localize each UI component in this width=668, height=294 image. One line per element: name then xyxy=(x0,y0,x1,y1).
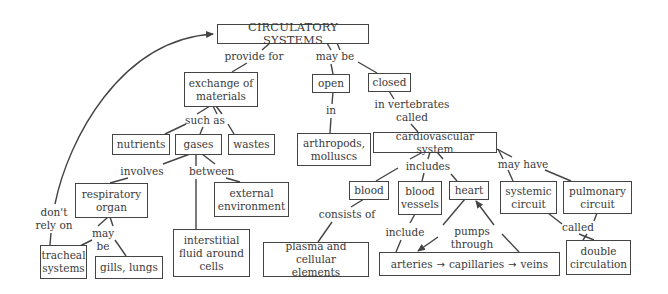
node-vessel-chain: arteries → capillaries → veins xyxy=(379,252,560,276)
node-plasma-cellular-elements: plasma and cellular elements xyxy=(263,242,369,277)
link-consists-of: consists of xyxy=(316,208,378,221)
link-pumps-through: pumps through xyxy=(434,225,510,251)
node-systemic-circuit: systemic circuit xyxy=(500,181,557,214)
node-closed: closed xyxy=(368,73,411,92)
node-double-circulation: double circulation xyxy=(566,240,631,275)
node-nutrients: nutrients xyxy=(112,134,170,155)
link-dont-rely-on: don't rely on xyxy=(34,206,74,232)
node-blood-vessels: blood vessels xyxy=(398,181,442,215)
chain-veins: veins xyxy=(521,258,549,271)
node-exchange-of-materials: exchange of materials xyxy=(184,72,258,107)
link-in: in xyxy=(323,104,339,117)
link-provide-for: provide for xyxy=(224,50,284,63)
node-tracheal-systems: tracheal systems xyxy=(40,245,87,279)
right-arrow-icon: → xyxy=(437,258,445,271)
link-such-as: such as xyxy=(184,114,226,127)
link-involves: involves xyxy=(118,165,166,178)
link-may-be-top: may be xyxy=(314,50,356,63)
node-arthropods-molluscs: arthropods, molluscs xyxy=(297,133,371,166)
node-wastes: wastes xyxy=(228,134,275,155)
node-cardiovascular-system: cardiovascular system xyxy=(373,132,497,153)
right-arrow-icon: → xyxy=(508,258,516,271)
link-may-have: may have xyxy=(497,158,549,171)
concept-map: CIRCULATORY SYSTEMS exchange of material… xyxy=(0,0,668,294)
link-include: include xyxy=(384,226,426,239)
link-called: called xyxy=(560,221,596,234)
node-pulmonary-circuit: pulmonary circuit xyxy=(563,181,632,214)
link-includes: includes xyxy=(403,160,453,173)
link-may-be-lower: may be xyxy=(84,227,122,253)
node-gases: gases xyxy=(175,134,222,155)
link-in-vertebrates-called: in vertebrates called xyxy=(374,98,450,124)
node-external-environment: external environment xyxy=(214,182,289,217)
node-heart: heart xyxy=(449,181,489,200)
chain-capillaries: capillaries xyxy=(449,258,504,271)
link-between: between xyxy=(189,165,233,178)
node-open: open xyxy=(312,74,350,93)
node-blood: blood xyxy=(349,181,389,200)
node-respiratory-organ: respiratory organ xyxy=(75,183,148,218)
chain-arteries: arteries xyxy=(391,258,433,271)
node-interstitial-fluid: interstitial fluid around cells xyxy=(173,229,250,277)
node-gills-lungs: gills, lungs xyxy=(95,256,163,279)
node-circulatory-systems: CIRCULATORY SYSTEMS xyxy=(217,24,369,44)
